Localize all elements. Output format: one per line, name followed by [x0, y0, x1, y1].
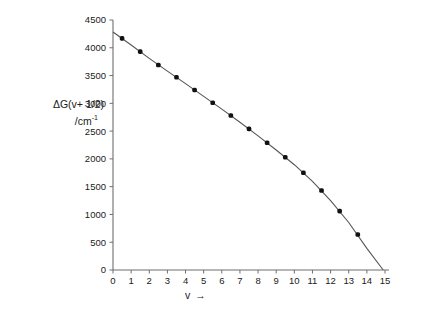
y-axis-unit-text: /cm	[75, 115, 92, 127]
x-axis: 0123456789101112131415	[110, 270, 390, 286]
x-axis-tick-label: 1	[128, 275, 133, 286]
x-axis-tick-label: 13	[343, 275, 354, 286]
y-axis-tick-label: 0	[101, 264, 106, 275]
x-axis-tick-label: 4	[183, 275, 188, 286]
data-point-marker	[265, 140, 270, 145]
data-point-marker	[210, 100, 215, 105]
data-point-marker	[356, 232, 361, 237]
data-point-marker	[301, 170, 306, 175]
x-axis-tick-label: 12	[325, 275, 336, 286]
data-point-marker	[337, 209, 342, 214]
x-axis-tick-label: 10	[289, 275, 300, 286]
x-axis-tick-label: 8	[255, 275, 260, 286]
data-point-marker	[319, 188, 324, 193]
x-axis-tick-label: 15	[380, 275, 391, 286]
y-axis-label-line2: /cm-1	[8, 111, 104, 128]
x-axis-tick-label: 14	[362, 275, 373, 286]
chart-figure: ΔG(v+ 1/2) /cm-1 v→ 05001000150020002500…	[0, 0, 421, 314]
x-axis-label-symbol: v	[185, 289, 190, 301]
x-axis-tick-label: 3	[165, 275, 170, 286]
data-point-marker	[229, 113, 234, 118]
y-axis: 050010001500200025003000350040004500	[85, 14, 113, 275]
y-axis-tick-label: 4500	[85, 14, 106, 25]
data-point-marker	[138, 49, 143, 54]
x-axis-tick-label: 11	[308, 275, 318, 286]
data-point-marker	[247, 127, 252, 132]
data-point-marker	[156, 63, 161, 68]
y-axis-label-line1: ΔG(v+ 1/2)	[8, 98, 104, 111]
y-axis-tick-label: 3500	[85, 70, 106, 81]
y-axis-tick-label: 1000	[85, 209, 106, 220]
series-fit-line	[113, 32, 383, 270]
plot-area: 050010001500200025003000350040004500 012…	[0, 0, 421, 314]
x-axis-tick-label: 5	[201, 275, 206, 286]
x-axis-tick-label: 2	[147, 275, 152, 286]
x-axis-tick-label: 0	[110, 275, 115, 286]
data-series	[113, 32, 383, 270]
y-axis-tick-label: 1500	[85, 181, 106, 192]
x-axis-tick-label: 7	[237, 275, 242, 286]
data-point-marker	[174, 75, 179, 80]
y-axis-tick-label: 4000	[85, 42, 106, 53]
data-point-marker	[120, 36, 125, 41]
x-axis-tick-label: 9	[274, 275, 279, 286]
x-axis-label: v→	[185, 289, 206, 301]
x-axis-arrow-icon: →	[195, 289, 206, 301]
y-axis-label: ΔG(v+ 1/2) /cm-1	[8, 98, 104, 128]
data-point-marker	[283, 155, 288, 160]
y-axis-tick-label: 2000	[85, 153, 106, 164]
x-axis-tick-label: 6	[219, 275, 224, 286]
y-axis-unit-exponent: -1	[92, 114, 98, 121]
data-point-marker	[192, 88, 197, 93]
y-axis-tick-label: 500	[90, 237, 106, 248]
